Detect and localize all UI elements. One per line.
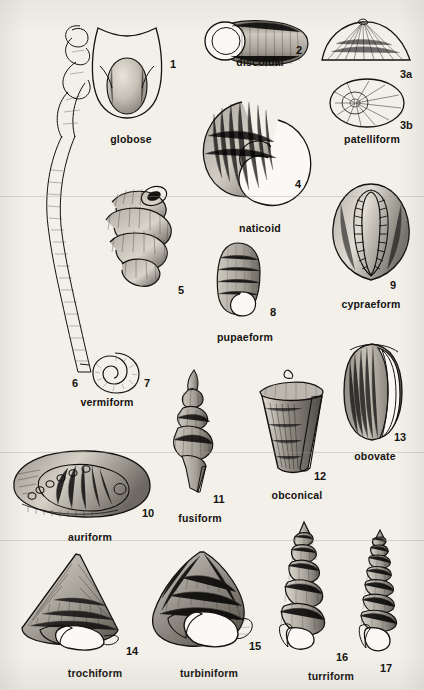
figure-caption-turriform: turriform — [308, 670, 354, 682]
figure-number-4: 4 — [295, 178, 301, 190]
shell-illustration-patelliform-top — [327, 77, 407, 129]
figure-number-5: 5 — [178, 284, 184, 296]
figure-number-17: 17 — [380, 662, 392, 674]
figure-number-11: 11 — [213, 493, 225, 505]
figure-caption-auriform: auriform — [68, 531, 112, 543]
figure-caption-obconical: obconical — [272, 489, 323, 501]
figure-number-16: 16 — [336, 651, 348, 663]
figure-caption-trochiform: trochiform — [68, 667, 123, 679]
shell-illustration-fusiform — [164, 368, 228, 494]
shell-illustration-patelliform-side — [318, 18, 414, 66]
figure-number-14: 14 — [126, 645, 138, 657]
figure-number-10: 10 — [142, 507, 154, 519]
figure-number-8: 8 — [270, 306, 276, 318]
figure-caption-discoidal: discoidal — [236, 56, 283, 68]
figure-caption-fusiform: fusiform — [178, 512, 222, 524]
figure-caption-pupaeform: pupaeform — [217, 331, 273, 343]
figure-number-13: 13 — [394, 431, 406, 443]
scan-artifact-line — [0, 452, 424, 453]
figure-number-9: 9 — [390, 279, 396, 291]
figure-number-3b: 3b — [400, 119, 413, 131]
shell-illustration-globose — [82, 18, 172, 126]
shell-illustration-trochiform — [10, 552, 138, 652]
figure-number-12: 12 — [314, 470, 326, 482]
shell-illustration-vermiform-flat — [88, 350, 142, 396]
figure-number-6: 6 — [72, 377, 78, 389]
illustration-plate: 1 globose — [0, 0, 424, 690]
shell-illustration-pupaeform — [208, 240, 272, 318]
shell-illustration-auriform — [6, 448, 156, 520]
scan-artifact-line — [0, 540, 424, 541]
figure-number-15: 15 — [249, 640, 261, 652]
figure-number-2: 2 — [296, 44, 302, 56]
figure-caption-cypraeform: cypraeform — [341, 298, 400, 310]
figure-number-1: 1 — [170, 58, 176, 70]
figure-caption-naticoid: naticoid — [239, 222, 281, 234]
figure-caption-globose: globose — [110, 133, 152, 145]
figure-caption-patelliform: patelliform — [344, 133, 400, 145]
shell-illustration-obconical — [248, 368, 336, 478]
figure-caption-turbiniform: turbiniform — [180, 667, 238, 679]
shell-illustration-turriform-tall — [348, 528, 410, 658]
shell-illustration-turbiniform — [142, 548, 260, 652]
figure-caption-vermiform: vermiform — [80, 396, 133, 408]
shell-illustration-obovate — [338, 340, 410, 444]
figure-number-7: 7 — [144, 377, 150, 389]
scan-artifact-line — [0, 196, 424, 197]
